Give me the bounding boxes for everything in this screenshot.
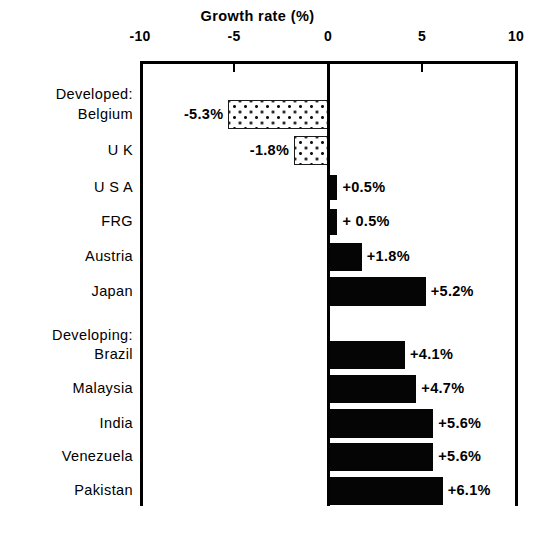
bar (328, 375, 416, 403)
x-tick-label: -5 (227, 28, 240, 44)
bar-value-label: + 0.5% (342, 213, 389, 229)
chart-title: Growth rate (%) (0, 8, 528, 24)
category-label: Belgium (78, 106, 133, 122)
plot-left-border (140, 61, 143, 506)
category-label: Brazil (94, 346, 133, 362)
category-label: Japan (91, 283, 133, 299)
zero-baseline (327, 61, 330, 506)
bar (328, 277, 426, 306)
bar-value-label: -1.8% (250, 142, 289, 158)
bar (328, 477, 443, 505)
plot-right-border (515, 61, 518, 506)
category-label: U K (108, 142, 133, 158)
bar (328, 341, 405, 369)
category-label: Malaysia (73, 380, 133, 396)
bar (328, 243, 362, 271)
bar (328, 409, 433, 438)
bar-value-label: +5.2% (431, 283, 474, 299)
bar-value-label: +1.8% (367, 248, 410, 264)
category-label: U S A (94, 179, 133, 195)
growth-rate-bar-chart: Growth rate (%) -10-50510 Developed:Belg… (0, 0, 541, 533)
bar-value-label: +5.6% (438, 415, 481, 431)
x-tick-mark (233, 64, 235, 72)
x-tick-label: 5 (418, 28, 426, 44)
bar (294, 136, 328, 165)
bar-value-label: +0.5% (342, 179, 385, 195)
bar-value-label: +4.7% (421, 380, 464, 396)
bar (228, 100, 328, 129)
group-label: Developed: (56, 86, 133, 102)
category-label: FRG (101, 213, 133, 229)
bar-value-label: -5.3% (184, 106, 223, 122)
x-tick-label: 10 (508, 28, 524, 44)
category-label: Venezuela (62, 448, 133, 464)
bar-value-label: +5.6% (438, 448, 481, 464)
group-label: Developing: (52, 327, 133, 343)
bar-value-label: +4.1% (410, 346, 453, 362)
bar (328, 443, 433, 471)
x-axis-tick-labels: -10-50510 (0, 28, 541, 48)
x-tick-label: -10 (129, 28, 150, 44)
x-tick-label: 0 (324, 28, 332, 44)
x-tick-mark (421, 64, 423, 72)
category-label: Austria (85, 248, 133, 264)
category-label: Pakistan (74, 482, 133, 498)
category-label: India (100, 415, 133, 431)
bar-value-label: +6.1% (448, 482, 491, 498)
